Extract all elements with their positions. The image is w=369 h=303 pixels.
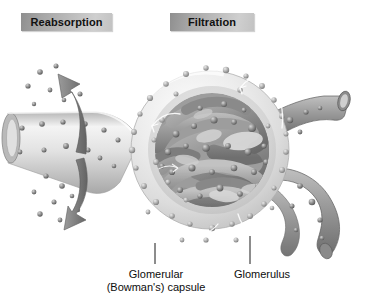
reabsorption-label-box: Reabsorption — [21, 13, 112, 31]
filtration-label-text: Filtration — [188, 16, 236, 28]
proximal-tubule — [2, 112, 140, 193]
reabsorption-label-text: Reabsorption — [30, 16, 102, 28]
figure-canvas: Reabsorption Filtration Glomerular (Bowm… — [0, 0, 369, 303]
glomerular-capsule-callout: Glomerular (Bowman's) capsule — [88, 268, 224, 294]
glomerular-capsule-callout-line2: (Bowman's) capsule — [88, 281, 224, 294]
renal-corpuscle-illustration — [0, 0, 369, 303]
glomerular-capsule-callout-line1: Glomerular — [88, 268, 224, 281]
glomerulus-callout: Glomerulus — [214, 268, 310, 281]
filtration-label-box: Filtration — [170, 13, 254, 31]
glomerulus-callout-line1: Glomerulus — [214, 268, 310, 281]
